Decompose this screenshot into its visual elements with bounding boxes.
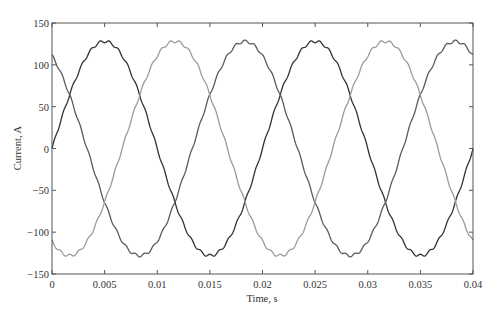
x-tick-label: 0.04 [464,279,483,290]
x-tick-label: 0.015 [198,279,222,290]
y-axis: 150100500−50−100−150 [27,18,473,280]
y-tick-label: −100 [27,227,49,238]
y-tick-label: 50 [39,102,50,113]
series-layer [52,40,473,257]
x-tick-label: 0.02 [253,279,271,290]
x-tick-label: 0.035 [409,279,433,290]
x-tick-label: 0.005 [93,279,117,290]
y-tick-label: 100 [33,60,49,71]
x-tick-label: 0 [49,279,54,290]
y-axis-label: Current, A [12,125,23,170]
line-chart: 00.0050.010.0150.020.0250.030.0350.04 15… [0,0,499,320]
y-tick-label: −150 [27,269,49,280]
x-tick-label: 0.025 [303,279,327,290]
x-tick-label: 0.03 [359,279,377,290]
series-phase-a [52,41,473,256]
y-tick-label: −50 [33,185,49,196]
x-axis-label: Time, s [246,293,277,304]
x-tick-label: 0.01 [148,279,166,290]
y-tick-label: 150 [33,18,49,29]
y-tick-label: 0 [44,144,49,155]
